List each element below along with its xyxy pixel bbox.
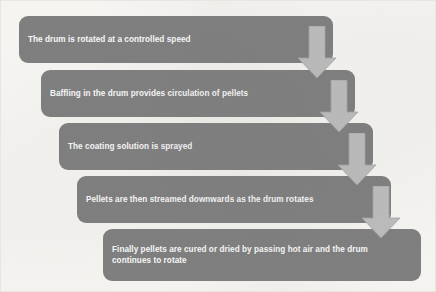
- flow-step-label-3: The coating solution is sprayed: [59, 141, 201, 153]
- flow-step-label-5: Finally pellets are cured or dried by pa…: [103, 244, 377, 267]
- flow-step-label-1: The drum is rotated at a controlled spee…: [19, 34, 200, 46]
- down-arrow-icon-1: [297, 26, 337, 79]
- flow-step-box-1[interactable]: The drum is rotated at a controlled spee…: [19, 16, 333, 63]
- flowchart-canvas: The drum is rotated at a controlled spee…: [0, 0, 436, 292]
- down-arrow-icon-4: [361, 186, 401, 239]
- flow-step-label-4: Pellets are then streamed downwards as t…: [77, 194, 323, 206]
- down-arrow-icon-3: [337, 133, 377, 186]
- flow-step-label-2: Baffling in the drum provides circulatio…: [41, 88, 257, 100]
- down-arrow-icon-2: [319, 80, 359, 133]
